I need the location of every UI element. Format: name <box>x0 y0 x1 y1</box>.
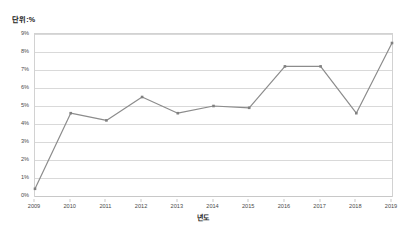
y-tick-label-4pct: 4% <box>21 120 29 126</box>
data-point-2018 <box>355 112 358 115</box>
data-point-2009 <box>34 188 37 191</box>
y-tick-label-0pct: 0% <box>21 192 29 198</box>
x-tick-mark-2019 <box>391 199 392 202</box>
y-tick-label-6pct: 6% <box>21 84 29 90</box>
y-tick-label-3pct: 3% <box>21 138 29 144</box>
x-tick-label-2011: 2011 <box>99 203 111 209</box>
data-point-2013 <box>177 112 180 115</box>
x-tick-label-2012: 2012 <box>135 203 147 209</box>
x-axis-title: 년도 <box>0 212 405 222</box>
data-point-2017 <box>319 65 322 68</box>
data-point-2016 <box>284 65 287 68</box>
x-tick-mark-2009 <box>34 199 35 202</box>
series-polyline <box>35 43 392 189</box>
y-tick-label-1pct: 1% <box>21 174 29 180</box>
y-axis-tick-labels: 0%1%2%3%4%5%6%7%8%9% <box>0 33 32 195</box>
gridline-0pct <box>35 196 392 197</box>
plot-area <box>34 33 393 197</box>
x-tick-label-2009: 2009 <box>28 203 40 209</box>
data-point-2011 <box>105 119 108 122</box>
x-tick-mark-2015 <box>248 199 249 202</box>
y-tick-label-5pct: 5% <box>21 102 29 108</box>
x-tick-mark-2017 <box>319 199 320 202</box>
x-tick-mark-2013 <box>176 199 177 202</box>
chart-unit-caption: 단위:% <box>12 14 35 24</box>
x-tick-mark-2011 <box>105 199 106 202</box>
x-tick-label-2014: 2014 <box>206 203 218 209</box>
x-tick-label-2015: 2015 <box>242 203 254 209</box>
data-series-line <box>35 34 392 196</box>
x-tick-label-2017: 2017 <box>313 203 325 209</box>
y-tick-label-9pct: 9% <box>21 30 29 36</box>
x-tick-label-2018: 2018 <box>349 203 361 209</box>
x-tick-label-2016: 2016 <box>278 203 290 209</box>
x-axis-tick-labels: 2009201020112012201320142015201620172018… <box>34 199 391 211</box>
data-point-2014 <box>212 105 215 108</box>
x-tick-mark-2014 <box>212 199 213 202</box>
data-point-2012 <box>141 96 144 99</box>
x-tick-label-2013: 2013 <box>171 203 183 209</box>
y-tick-label-2pct: 2% <box>21 156 29 162</box>
data-point-2015 <box>248 107 251 110</box>
y-tick-label-8pct: 8% <box>21 48 29 54</box>
x-tick-mark-2010 <box>69 199 70 202</box>
x-tick-mark-2012 <box>141 199 142 202</box>
x-tick-label-2019: 2019 <box>385 203 397 209</box>
line-chart-figure: 단위:% 0%1%2%3%4%5%6%7%8%9% 20092010201120… <box>0 0 405 233</box>
y-tick-label-7pct: 7% <box>21 66 29 72</box>
x-tick-label-2010: 2010 <box>63 203 75 209</box>
x-tick-mark-2016 <box>283 199 284 202</box>
data-point-2010 <box>69 112 72 115</box>
x-tick-mark-2018 <box>355 199 356 202</box>
data-point-2019 <box>391 42 394 45</box>
